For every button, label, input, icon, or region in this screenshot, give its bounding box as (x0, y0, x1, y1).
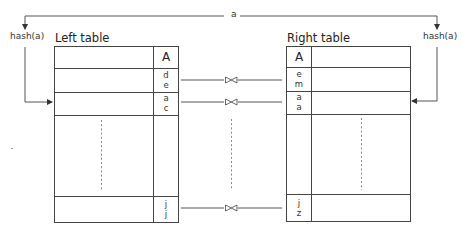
cell-value: e (154, 80, 178, 90)
cell-value: j (154, 209, 178, 219)
cell-value: c (154, 103, 178, 113)
stray-mark (11, 148, 13, 149)
left-hash-arrow (25, 47, 52, 102)
cell-value: e (287, 69, 311, 79)
left-hash-label: hash(a) (10, 31, 44, 41)
left-table-row-1: d e (154, 70, 178, 90)
cell-value: j (287, 198, 311, 208)
top-key-label: a (228, 9, 240, 19)
join-links (181, 80, 282, 208)
cell-value: j (154, 199, 178, 209)
right-table-column-header: A (287, 50, 311, 64)
right-hash-label: hash(a) (423, 31, 457, 41)
join-icon (226, 77, 238, 83)
right-table-row-last: j z (287, 198, 311, 218)
right-table-title: Right table (287, 31, 350, 45)
cell-value: a (154, 93, 178, 103)
join-symbols (226, 77, 238, 211)
right-hash-arrow (412, 47, 437, 101)
ellipsis-dashes (102, 118, 362, 190)
cell-value: a (287, 92, 311, 102)
right-table-row-2: a a (287, 92, 311, 112)
cell-value: d (154, 70, 178, 80)
cell-value: z (287, 208, 311, 218)
left-table-title: Left table (55, 31, 109, 45)
left-table-column-header: A (154, 50, 178, 64)
left-table-row-2: a c (154, 93, 178, 113)
cell-value: a (287, 102, 311, 112)
right-table-row-1: e m (287, 69, 311, 89)
left-table-row-last: j j (154, 199, 178, 219)
join-icon (226, 205, 238, 211)
cell-value: m (287, 79, 311, 89)
join-icon (226, 99, 238, 105)
